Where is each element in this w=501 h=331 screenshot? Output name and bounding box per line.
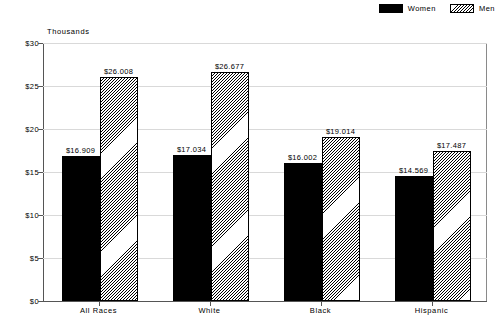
bar-men-all-races: $26.008 [100, 77, 138, 301]
bar-men-white: $26.677 [211, 72, 249, 301]
y-axis-title: Thousands [47, 27, 90, 36]
y-axis-tick-labels: $0$5$10$15$20$25$30 [0, 43, 39, 302]
legend-swatch-women-icon [379, 4, 403, 13]
bar-men-hispanic: $17.487 [433, 151, 471, 301]
x-axis-label-black: Black [310, 306, 331, 315]
grouped-bar-chart: Women Men Thousands $0$5$10$15$20$25$30 … [0, 0, 501, 331]
y-tick-label: $25 [25, 82, 39, 91]
y-tick-mark [38, 258, 43, 259]
legend-label-women: Women [408, 4, 436, 13]
bar-women-hispanic: $14.569 [395, 176, 433, 301]
x-axis-line [43, 301, 487, 302]
bar-group: $16.909$26.008 [62, 43, 138, 301]
y-tick-label: $30 [25, 39, 39, 48]
bar-value-label: $16.909 [66, 146, 95, 155]
bar-group: $16.002$19.014 [284, 43, 360, 301]
x-axis-label-hispanic: Hispanic [415, 306, 449, 315]
y-tick-mark [38, 43, 43, 44]
legend-entry-women: Women [379, 4, 436, 13]
x-tick-mark [432, 301, 433, 306]
x-axis-category-labels: All RacesWhiteBlackHispanic [43, 306, 487, 320]
bar-value-label: $26.677 [215, 62, 244, 71]
bar-value-label: $14.569 [399, 166, 428, 175]
y-tick-mark [38, 301, 43, 302]
legend-entry-men: Men [450, 4, 495, 13]
y-tick-mark [38, 215, 43, 216]
x-axis-label-white: White [198, 306, 220, 315]
y-tick-label: $20 [25, 125, 39, 134]
bar-women-all-races: $16.909 [62, 156, 100, 301]
y-tick-mark [38, 86, 43, 87]
y-tick-mark [38, 129, 43, 130]
bar-value-label: $19.014 [326, 127, 355, 136]
bar-men-black: $19.014 [322, 137, 360, 301]
x-tick-mark [99, 301, 100, 306]
legend-swatch-men-icon [450, 4, 474, 13]
bar-group: $14.569$17.487 [395, 43, 471, 301]
bar-value-label: $26.008 [104, 67, 133, 76]
x-axis-label-all-races: All Races [80, 306, 117, 315]
x-tick-mark [321, 301, 322, 306]
x-tick-mark [210, 301, 211, 306]
y-tick-label: $10 [25, 211, 39, 220]
bar-women-black: $16.002 [284, 163, 322, 301]
chart-legend: Women Men [379, 4, 495, 13]
bar-value-label: $16.002 [288, 153, 317, 162]
plot-area: $16.909$26.008$17.034$26.677$16.002$19.0… [43, 43, 487, 302]
bar-group: $17.034$26.677 [173, 43, 249, 301]
bar-value-label: $17.487 [437, 141, 466, 150]
legend-label-men: Men [479, 4, 495, 13]
bar-groups: $16.909$26.008$17.034$26.677$16.002$19.0… [44, 43, 487, 301]
bar-women-white: $17.034 [173, 155, 211, 301]
bar-value-label: $17.034 [177, 145, 206, 154]
y-tick-label: $15 [25, 168, 39, 177]
y-tick-mark [38, 172, 43, 173]
